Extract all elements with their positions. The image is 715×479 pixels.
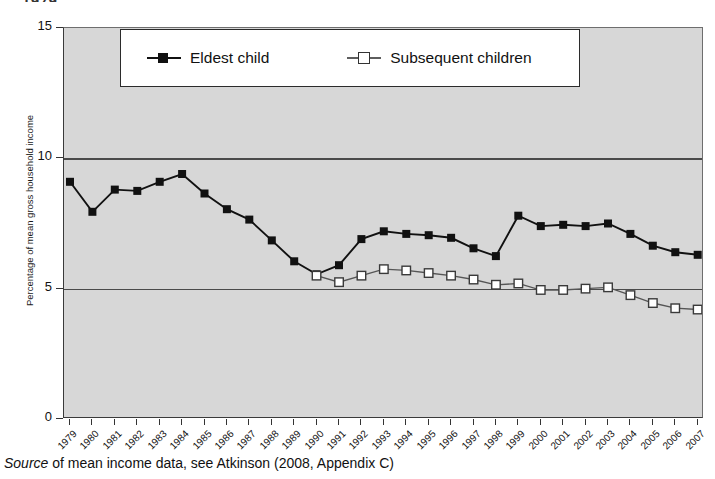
x-tick-mark xyxy=(271,419,272,425)
x-tick-mark xyxy=(181,419,182,425)
data-point-marker xyxy=(447,271,456,280)
data-point-marker xyxy=(469,275,478,284)
data-point-marker xyxy=(380,265,389,274)
data-point-marker xyxy=(582,222,590,230)
data-point-marker xyxy=(335,261,343,269)
y-tick-label: 15 xyxy=(16,18,52,33)
source-note: Source of mean income data, see Atkinson… xyxy=(4,455,394,471)
y-tick-label: 5 xyxy=(16,279,52,294)
data-point-marker xyxy=(649,242,657,250)
source-note-rest: of mean income data, see Atkinson (2008,… xyxy=(48,455,394,471)
x-tick-mark xyxy=(159,419,160,425)
series-line-subsequent-children xyxy=(317,269,698,309)
x-tick-mark xyxy=(450,419,451,425)
data-point-marker xyxy=(268,236,276,244)
x-tick-mark xyxy=(204,419,205,425)
y-tick-mark xyxy=(56,418,63,419)
data-point-marker xyxy=(649,299,658,308)
x-tick-mark xyxy=(136,419,137,425)
data-point-marker xyxy=(492,281,501,290)
data-point-marker xyxy=(88,208,96,216)
data-point-marker xyxy=(402,266,411,275)
x-tick-mark xyxy=(473,419,474,425)
data-point-marker xyxy=(111,186,119,194)
data-point-marker xyxy=(312,271,321,280)
data-point-marker xyxy=(604,283,613,292)
data-point-marker xyxy=(357,271,366,280)
x-tick-mark xyxy=(607,419,608,425)
chart-legend: Eldest child Subsequent children xyxy=(120,29,580,87)
data-point-marker xyxy=(693,305,702,314)
x-tick-mark xyxy=(91,419,92,425)
x-tick-mark xyxy=(405,419,406,425)
x-tick-mark xyxy=(248,419,249,425)
data-point-marker xyxy=(671,304,680,313)
data-point-marker xyxy=(559,286,568,295)
data-point-marker xyxy=(402,230,410,238)
data-point-marker xyxy=(357,235,365,243)
y-tick-mark xyxy=(56,157,63,158)
data-point-marker xyxy=(604,220,612,228)
y-tick-label: 0 xyxy=(16,409,52,424)
data-point-marker xyxy=(335,278,344,287)
data-point-marker xyxy=(492,252,500,260)
data-point-marker xyxy=(537,222,545,230)
y-tick-label: 10 xyxy=(16,148,52,163)
data-point-marker xyxy=(514,279,523,288)
source-note-prefix: Source xyxy=(4,455,48,471)
data-point-marker xyxy=(380,227,388,235)
x-tick-mark xyxy=(562,419,563,425)
data-point-marker xyxy=(424,269,433,278)
x-tick-mark xyxy=(629,419,630,425)
data-point-marker xyxy=(156,178,164,186)
data-point-marker xyxy=(290,257,298,265)
legend-label-subsequent-children: Subsequent children xyxy=(390,49,531,67)
x-tick-mark xyxy=(652,419,653,425)
x-tick-mark xyxy=(428,419,429,425)
x-tick-mark xyxy=(495,419,496,425)
chart-figure: 1979 Percentage of mean gross household … xyxy=(0,0,715,479)
data-point-marker xyxy=(66,178,74,186)
x-tick-mark xyxy=(69,419,70,425)
cropped-top-text: 1979 xyxy=(22,0,57,2)
legend-label-eldest-child: Eldest child xyxy=(190,49,269,67)
x-tick-mark xyxy=(226,419,227,425)
data-point-marker xyxy=(581,284,590,293)
x-tick-mark xyxy=(697,419,698,425)
x-tick-mark xyxy=(517,419,518,425)
data-point-marker xyxy=(470,244,478,252)
legend-item-eldest-child: Eldest child xyxy=(147,49,269,67)
series-line-eldest-child xyxy=(70,174,698,274)
data-point-marker xyxy=(178,170,186,178)
x-tick-mark xyxy=(114,419,115,425)
x-tick-mark xyxy=(293,419,294,425)
x-tick-mark xyxy=(674,419,675,425)
x-tick-mark xyxy=(383,419,384,425)
data-point-marker xyxy=(537,286,546,295)
open-square-marker-icon xyxy=(347,52,381,64)
data-point-marker xyxy=(626,291,635,300)
data-point-marker xyxy=(245,216,253,224)
data-point-marker xyxy=(133,187,141,195)
data-point-marker xyxy=(223,205,231,213)
x-tick-mark xyxy=(360,419,361,425)
x-tick-mark xyxy=(338,419,339,425)
y-tick-mark xyxy=(56,288,63,289)
data-point-marker xyxy=(201,190,209,198)
data-point-marker xyxy=(694,251,702,259)
legend-item-subsequent-children: Subsequent children xyxy=(347,49,531,67)
data-point-marker xyxy=(425,231,433,239)
data-point-marker xyxy=(671,248,679,256)
data-point-marker xyxy=(626,230,634,238)
y-tick-mark xyxy=(56,27,63,28)
x-tick-mark xyxy=(540,419,541,425)
data-point-marker xyxy=(514,212,522,220)
filled-square-marker-icon xyxy=(147,52,181,64)
x-tick-mark xyxy=(585,419,586,425)
data-point-marker xyxy=(447,234,455,242)
data-point-marker xyxy=(559,221,567,229)
x-tick-mark xyxy=(316,419,317,425)
